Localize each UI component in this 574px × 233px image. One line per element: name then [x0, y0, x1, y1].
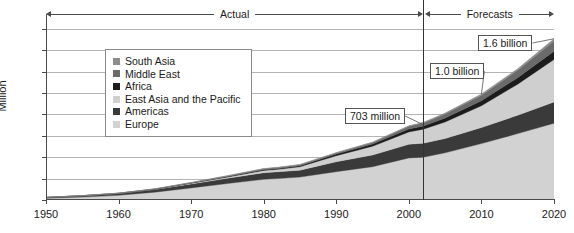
- x-tick-label: 1980: [251, 208, 275, 220]
- x-tick-label: 2020: [542, 208, 566, 220]
- period-rule: [430, 14, 460, 15]
- legend-label: Americas: [125, 106, 169, 117]
- legend-label: Middle East: [125, 69, 180, 80]
- x-tick-mark: [264, 199, 265, 204]
- callout-703-million: 703 million: [345, 108, 405, 124]
- y-tick-mark: [42, 136, 47, 137]
- x-axis-line: [46, 199, 554, 200]
- y-tick-mark: [42, 114, 47, 115]
- period-rule: [51, 14, 214, 15]
- period-rule: [255, 14, 418, 15]
- x-tick-mark: [46, 199, 47, 204]
- y-tick-mark: [42, 179, 47, 180]
- chart-figure: Actual Forecasts Million 020040060080010…: [0, 0, 574, 233]
- legend-label: East Asia and the Pacific: [125, 94, 241, 105]
- x-tick-mark: [481, 199, 482, 204]
- x-tick-mark: [191, 199, 192, 204]
- legend-label: South Asia: [125, 56, 175, 67]
- legend-label: Africa: [125, 81, 152, 92]
- period-rule: [519, 14, 549, 15]
- y-tick-mark: [42, 50, 47, 51]
- legend-item: South Asia: [113, 55, 241, 68]
- x-tick-label: 2000: [397, 208, 421, 220]
- legend-item: East Asia and the Pacific: [113, 93, 241, 106]
- x-tick-label: 1970: [179, 208, 203, 220]
- x-tick-mark: [409, 199, 410, 204]
- x-tick-label: 2010: [469, 208, 493, 220]
- legend-item: Africa: [113, 80, 241, 93]
- x-tick-label: 1990: [324, 208, 348, 220]
- legend-swatch-africa: [113, 83, 120, 90]
- x-tick-label: 1960: [106, 208, 130, 220]
- y-tick-mark: [42, 157, 47, 158]
- y-tick-mark: [42, 93, 47, 94]
- x-tick-mark: [119, 199, 120, 204]
- chart-legend: South Asia Middle East Africa East Asia …: [105, 49, 252, 137]
- callout-1-0-billion: 1.0 billion: [430, 63, 484, 79]
- legend-item: Americas: [113, 105, 241, 118]
- legend-swatch-middle-east: [113, 70, 120, 77]
- y-tick-mark: [42, 72, 47, 73]
- arrow-right-icon: [549, 11, 554, 17]
- forecast-divider: [423, 0, 424, 200]
- y-axis-line: [46, 14, 47, 200]
- legend-swatch-east-asia-pacific: [113, 96, 120, 103]
- x-tick-mark: [554, 199, 555, 204]
- callout-1-6-billion: 1.6 billion: [478, 35, 532, 51]
- y-tick-mark: [42, 29, 47, 30]
- legend-swatch-south-asia: [113, 58, 120, 65]
- x-tick-mark: [336, 199, 337, 204]
- legend-swatch-americas: [113, 108, 120, 115]
- legend-item: Europe: [113, 118, 241, 131]
- legend-swatch-europe: [113, 121, 120, 128]
- y-axis-title: Million: [0, 80, 8, 111]
- legend-item: Middle East: [113, 68, 241, 81]
- x-tick-label: 1950: [34, 208, 58, 220]
- legend-label: Europe: [125, 119, 159, 130]
